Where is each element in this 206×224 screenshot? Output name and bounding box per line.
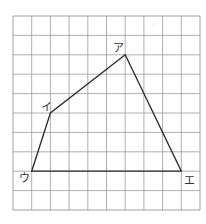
- vertex-label-i: イ: [41, 101, 52, 114]
- vertex-label-a: ア: [113, 42, 124, 55]
- speck-mark: [152, 23, 153, 24]
- grid-diagram: ア イ ウ エ: [0, 0, 206, 224]
- vertex-label-e: エ: [184, 174, 195, 187]
- vertex-label-u: ウ: [19, 172, 30, 185]
